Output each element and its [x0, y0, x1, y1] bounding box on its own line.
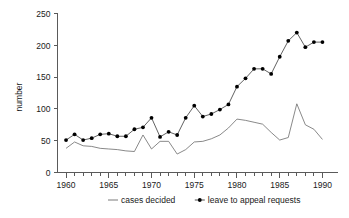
data-point-marker — [312, 40, 316, 44]
plot-area — [64, 31, 324, 154]
data-point-marker — [192, 104, 196, 108]
data-point-marker — [218, 108, 222, 112]
data-point-marker — [201, 115, 205, 119]
y-tick-label: 0 — [46, 168, 51, 178]
y-tick-label: 100 — [36, 104, 50, 114]
x-tick-label: 1980 — [228, 180, 247, 190]
x-tick-label: 1985 — [270, 180, 289, 190]
x-tick-label: 1975 — [185, 180, 204, 190]
y-tick-label: 50 — [41, 136, 51, 146]
series-line-leave-to-appeal-requests — [66, 33, 322, 140]
data-point-marker — [269, 72, 273, 76]
legend-item: leave to appeal requests — [195, 195, 301, 205]
x-axis-ticks: 1960196519701975198019851990 — [57, 173, 333, 190]
data-point-marker — [141, 125, 145, 129]
chart-legend: cases decidedleave to appeal requests — [108, 195, 300, 205]
data-point-marker — [167, 130, 171, 134]
data-point-marker — [73, 132, 77, 136]
legend-label: leave to appeal requests — [208, 195, 301, 205]
legend-label: cases decided — [121, 195, 176, 205]
y-axis-ticks: 050100150200250 — [36, 9, 57, 178]
data-point-marker — [321, 40, 325, 44]
data-point-marker — [81, 138, 85, 142]
y-tick-label: 250 — [36, 9, 50, 19]
data-point-marker — [115, 134, 119, 138]
data-point-marker — [286, 39, 290, 43]
data-point-marker — [252, 67, 256, 71]
data-point-marker — [209, 112, 213, 116]
data-point-marker — [184, 116, 188, 120]
data-point-marker — [227, 103, 231, 107]
data-point-marker — [244, 76, 248, 80]
y-axis-title-label: number — [14, 82, 24, 111]
data-point-marker — [98, 132, 102, 136]
y-tick-label: 200 — [36, 41, 50, 51]
data-point-marker — [175, 133, 179, 137]
x-tick-label: 1960 — [57, 180, 76, 190]
x-tick-label: 1970 — [142, 180, 161, 190]
legend-dot-swatch — [198, 198, 202, 202]
data-point-marker — [90, 136, 94, 140]
data-point-marker — [303, 45, 307, 49]
data-point-marker — [124, 134, 128, 138]
chart-container: number 050100150200250 19601965197019751… — [0, 0, 349, 218]
data-point-marker — [158, 135, 162, 139]
y-axis-title: number — [14, 82, 24, 111]
data-point-marker — [107, 132, 111, 136]
line-chart: number 050100150200250 19601965197019751… — [0, 0, 349, 218]
data-point-marker — [261, 67, 265, 71]
data-point-marker — [150, 116, 154, 120]
y-tick-label: 150 — [36, 72, 50, 82]
data-point-marker — [64, 138, 68, 142]
data-point-marker — [295, 31, 299, 35]
x-tick-label: 1965 — [99, 180, 118, 190]
data-point-marker — [235, 85, 239, 89]
legend-item: cases decided — [108, 195, 176, 205]
x-tick-label: 1990 — [313, 180, 332, 190]
data-point-marker — [278, 55, 282, 59]
data-point-marker — [133, 127, 137, 131]
series-line-cases-decided — [66, 104, 322, 154]
